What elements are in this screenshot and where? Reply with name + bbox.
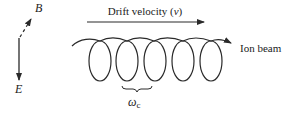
b-field-label: B — [35, 1, 43, 15]
helix-loop — [116, 41, 138, 81]
helix-loop — [89, 41, 111, 81]
helix-loop — [200, 41, 222, 81]
ion-drift-diagram: B E Drift velocity (v) Ion beam ωc — [0, 0, 297, 113]
b-field-arrow — [20, 19, 31, 37]
drift-velocity-label: Drift velocity (v) — [108, 5, 183, 18]
ion-helix — [72, 38, 231, 81]
ion-beam-label: Ion beam — [240, 42, 282, 54]
e-field-label: E — [14, 82, 23, 96]
helix-loop — [144, 41, 166, 81]
cyclotron-frequency-label: ωc — [128, 95, 140, 110]
period-brace — [122, 86, 152, 92]
helix-loop — [172, 41, 194, 81]
